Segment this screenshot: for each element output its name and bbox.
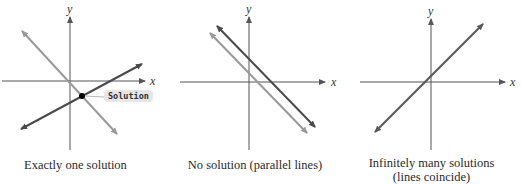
- panel-one-solution: x y Solution Exactly one solution: [0, 0, 175, 184]
- caption-infinite-line1: Infinitely many solutions: [343, 156, 520, 170]
- panel-no-solution: x y No solution (parallel lines): [170, 0, 350, 184]
- graph-infinite-solutions: x y: [345, 0, 522, 160]
- parallel-line-lower: [210, 33, 307, 133]
- solution-leader: [85, 96, 104, 97]
- parallel-line-upper: [217, 26, 315, 127]
- solution-annotation: Solution: [104, 90, 153, 102]
- caption-infinite-line2: (lines coincide): [343, 170, 520, 184]
- x-axis-label: x: [149, 74, 156, 88]
- panel-infinite-solutions: x y Infinitely many solutions (lines coi…: [345, 0, 522, 184]
- solution-point: [79, 93, 85, 99]
- x-axis-label: x: [330, 75, 337, 89]
- y-axis-label: y: [245, 2, 252, 16]
- caption-no-solution: No solution (parallel lines): [165, 158, 345, 172]
- x-axis-label: x: [509, 75, 516, 89]
- graph-no-solution: x y: [170, 0, 350, 160]
- y-axis-label: y: [66, 2, 73, 16]
- coincident-line: [375, 24, 483, 132]
- caption-one-solution: Exactly one solution: [0, 158, 163, 172]
- y-axis-label: y: [427, 4, 434, 18]
- graph-one-solution: x y: [0, 0, 175, 160]
